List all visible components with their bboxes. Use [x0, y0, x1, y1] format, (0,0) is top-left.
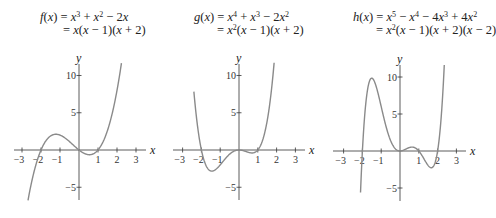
formula-g-line1: g(x) = x4 + x3 − 2x2 [194, 10, 289, 24]
y-tick-label: −5 [225, 182, 236, 193]
x-tick-label: −3 [335, 155, 346, 166]
formula-g-line2: = x2(x − 1)(x + 2) [194, 24, 304, 37]
x-tick-label: −1 [373, 155, 384, 166]
x-tick-label: −3 [174, 154, 185, 165]
formula-f-line1: f(x) = x3 + x2 − 2x [40, 10, 128, 24]
formula-h: h(x) = x5 − x4 − 4x3 + 4x2 = x2(x − 1)(x… [353, 11, 496, 37]
x-tick-label: −2 [354, 155, 365, 166]
y-tick-label: 5 [231, 107, 236, 118]
curve-f [28, 63, 121, 200]
x-tick-label: −3 [14, 154, 25, 165]
y-tick-label: 10 [387, 72, 397, 83]
x-tick-label: 1 [416, 155, 421, 166]
y-tick-label: 5 [71, 107, 76, 118]
x-tick-label: 2 [115, 154, 120, 165]
x-tick-label: 1 [255, 154, 260, 165]
x-tick-label: 1 [96, 154, 101, 165]
y-tick-label: 10 [226, 70, 236, 81]
y-tick-label: −5 [65, 182, 76, 193]
x-axis-label: x [308, 143, 315, 157]
formula-h-line1: h(x) = x5 − x4 − 4x3 + 4x2 [353, 10, 477, 24]
y-tick-label: 10 [66, 70, 76, 81]
formula-g: g(x) = x4 + x3 − 2x2 = x2(x − 1)(x + 2) [194, 11, 304, 37]
formula-h-line2: = x2(x − 1)(x + 2)(x − 2) [353, 24, 496, 37]
x-tick-label: 3 [293, 154, 298, 165]
y-axis-label: y [235, 51, 242, 65]
x-axis-label: x [149, 143, 156, 157]
formula-f-line2: = x(x − 1)(x + 2) [40, 24, 146, 37]
y-tick-label: −5 [386, 183, 397, 194]
y-axis-label: y [75, 51, 82, 65]
x-tick-label: 3 [134, 154, 139, 165]
x-tick-label: 2 [274, 154, 279, 165]
formula-f: f(x) = x3 + x2 − 2x = x(x − 1)(x + 2) [40, 11, 146, 37]
y-axis-label: y [396, 52, 403, 66]
x-tick-label: 3 [454, 155, 459, 166]
x-axis-label: x [469, 144, 476, 158]
x-tick-label: −1 [52, 154, 63, 165]
y-tick-label: 5 [392, 109, 397, 120]
curve-h [361, 65, 445, 192]
